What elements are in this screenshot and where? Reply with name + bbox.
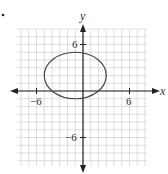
- y-axis-up-arrow-icon: [80, 24, 86, 32]
- x-axis-label: x: [159, 84, 166, 98]
- tick-label-x-neg6: −6: [30, 95, 42, 107]
- x-axis-left-arrow-icon: [10, 88, 18, 94]
- x-axis-right-arrow-icon: [152, 88, 160, 94]
- y-axis-down-arrow-icon: [80, 165, 86, 173]
- bullet-marker: [2, 14, 5, 17]
- coordinate-plane: y x −6 6 6 −6: [0, 0, 168, 174]
- tick-label-x-pos6: 6: [126, 95, 132, 107]
- y-axis-label: y: [79, 9, 86, 23]
- tick-label-y-neg6: −6: [65, 131, 77, 143]
- tick-label-y-pos6: 6: [72, 38, 78, 50]
